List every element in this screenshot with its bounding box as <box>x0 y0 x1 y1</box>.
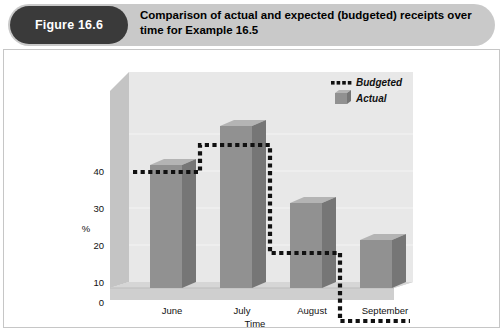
svg-text:30: 30 <box>93 203 104 214</box>
svg-text:0: 0 <box>99 297 104 308</box>
bar-september <box>360 234 406 288</box>
figure-header: Figure 16.6 Comparison of actual and exp… <box>0 0 503 49</box>
plot-left-wall <box>110 72 129 288</box>
svg-text:40: 40 <box>93 166 104 177</box>
figure-title: Comparison of actual and expected (budge… <box>140 8 485 38</box>
figure-number-badge: Figure 16.6 <box>10 6 128 44</box>
svg-text:June: June <box>162 305 183 316</box>
svg-text:20: 20 <box>93 240 104 251</box>
svg-text:%: % <box>82 223 91 234</box>
svg-text:Actual: Actual <box>355 93 387 104</box>
y-axis-ticks: 40 30 20 10 0 <box>93 166 104 308</box>
legend-item-actual: Actual <box>335 90 387 104</box>
y-axis-label: % <box>82 223 91 234</box>
figure-box: .budgeted-line { stroke: #111111; stroke… <box>3 49 500 328</box>
svg-text:Time: Time <box>245 318 266 329</box>
figure-number-label: Figure 16.6 <box>10 6 128 44</box>
gray-box-swatch <box>335 90 351 104</box>
svg-text:10: 10 <box>93 277 104 288</box>
x-axis-label: Time <box>245 318 266 329</box>
bar-august <box>290 197 336 288</box>
svg-text:August: August <box>297 305 327 316</box>
svg-text:July: July <box>234 305 251 316</box>
x-axis-ticks: June July August September <box>162 305 409 316</box>
bar-june <box>150 159 196 288</box>
svg-text:Budgeted: Budgeted <box>356 77 403 88</box>
svg-text:September: September <box>362 305 408 316</box>
bar-chart: .budgeted-line { stroke: #111111; stroke… <box>4 50 501 329</box>
